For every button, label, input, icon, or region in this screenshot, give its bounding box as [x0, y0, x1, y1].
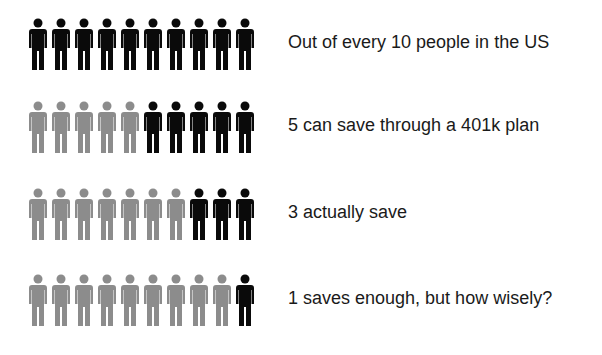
people-group — [28, 101, 255, 157]
person-icon — [74, 18, 94, 74]
person-icon — [51, 18, 71, 74]
person-icon — [51, 274, 71, 330]
person-icon — [51, 101, 71, 157]
person-icon — [97, 274, 117, 330]
person-icon — [120, 18, 140, 74]
row-can-save-401k: 5 can save through a 401k plan — [0, 101, 602, 161]
row-label: 5 can save through a 401k plan — [288, 115, 539, 136]
person-icon — [189, 274, 209, 330]
person-icon — [143, 101, 163, 157]
person-icon — [212, 188, 232, 244]
person-icon — [143, 18, 163, 74]
row-label: Out of every 10 people in the US — [288, 32, 549, 53]
person-icon — [189, 18, 209, 74]
person-icon — [166, 18, 186, 74]
row-actually-save: 3 actually save — [0, 188, 602, 248]
row-everyone: Out of every 10 people in the US — [0, 18, 602, 78]
people-group — [28, 188, 255, 244]
people-group — [28, 18, 255, 74]
person-icon — [166, 274, 186, 330]
person-icon — [74, 188, 94, 244]
person-icon — [97, 18, 117, 74]
person-icon — [166, 101, 186, 157]
person-icon — [28, 101, 48, 157]
row-label: 3 actually save — [288, 202, 407, 223]
person-icon — [120, 101, 140, 157]
person-icon — [212, 101, 232, 157]
person-icon — [74, 274, 94, 330]
person-icon — [212, 274, 232, 330]
person-icon — [28, 274, 48, 330]
person-icon — [235, 18, 255, 74]
person-icon — [143, 188, 163, 244]
person-icon — [120, 188, 140, 244]
row-label: 1 saves enough, but how wisely? — [288, 288, 552, 309]
person-icon — [28, 188, 48, 244]
person-icon — [120, 274, 140, 330]
person-icon — [166, 188, 186, 244]
person-icon — [235, 101, 255, 157]
person-icon — [212, 18, 232, 74]
people-group — [28, 274, 255, 330]
person-icon — [97, 188, 117, 244]
person-icon — [189, 101, 209, 157]
person-icon — [235, 274, 255, 330]
person-icon — [235, 188, 255, 244]
person-icon — [189, 188, 209, 244]
person-icon — [28, 18, 48, 74]
person-icon — [51, 188, 71, 244]
row-saves-enough: 1 saves enough, but how wisely? — [0, 274, 602, 334]
person-icon — [74, 101, 94, 157]
person-icon — [97, 101, 117, 157]
person-icon — [143, 274, 163, 330]
